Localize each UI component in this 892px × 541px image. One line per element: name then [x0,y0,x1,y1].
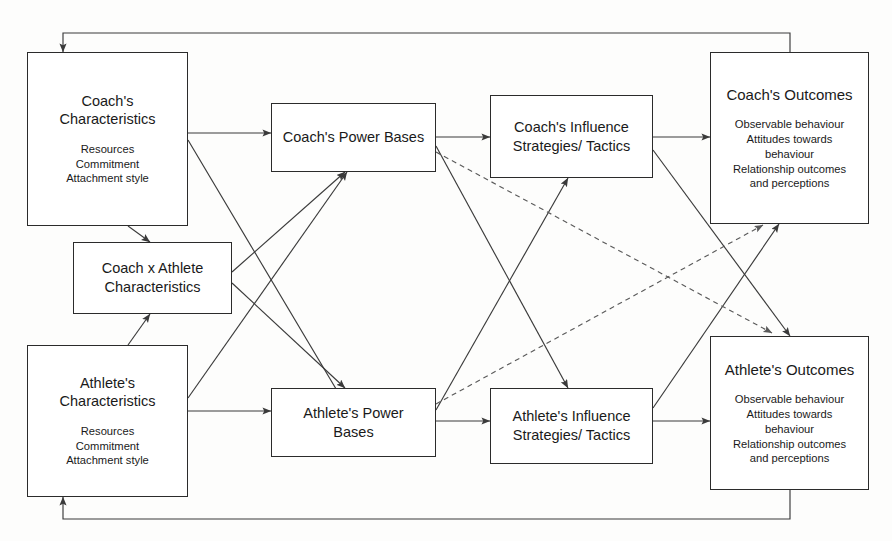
node-title: Coach's Power Bases [283,128,424,147]
node-athlete-characteristics[interactable]: Athlete's Characteristics Resources Comm… [27,345,188,497]
edge-athletechar-to-interaction [128,314,150,345]
edge-interaction-to-coachpower [232,172,345,272]
node-athlete-outcomes[interactable]: Athlete's Outcomes Observable behaviour … [710,336,869,490]
node-subtext: Observable behaviour Attitudes towards b… [733,117,846,191]
node-title: Athlete's Power Bases [303,404,403,441]
node-subtext: Observable behaviour Attitudes towards b… [733,392,846,466]
node-title: Coach's Influence Strategies/ Tactics [513,118,630,155]
node-coach-athlete-characteristics[interactable]: Coach x Athlete Characteristics [73,242,232,314]
node-coach-power-bases[interactable]: Coach's Power Bases [271,103,436,172]
node-title: Athlete's Outcomes [725,360,855,379]
node-title: Athlete's Influence Strategies/ Tactics [512,407,630,444]
node-title: Coach x Athlete Characteristics [102,259,204,296]
node-title: Coach's Characteristics [60,92,156,129]
edge-coachchar-to-interaction [128,226,150,242]
edge-feedback-coach-top [63,33,790,52]
node-coach-influence[interactable]: Coach's Influence Strategies/ Tactics [490,95,653,178]
edge-coachpower-to-athleteinfluence [436,146,568,388]
node-coach-outcomes[interactable]: Coach's Outcomes Observable behaviour At… [710,52,869,224]
node-athlete-influence[interactable]: Athlete's Influence Strategies/ Tactics [490,388,653,464]
diagram-canvas: Coach's Characteristics Resources Commit… [0,0,892,541]
node-coach-characteristics[interactable]: Coach's Characteristics Resources Commit… [27,52,188,226]
edge-interaction-to-athletepower [232,283,345,388]
node-subtext: Resources Commitment Attachment style [66,424,149,469]
node-title: Coach's Outcomes [726,85,852,104]
node-athlete-power-bases[interactable]: Athlete's Power Bases [271,388,436,457]
node-title: Athlete's Characteristics [60,374,156,411]
node-subtext: Resources Commitment Attachment style [66,142,149,187]
edge-athletepower-to-coachinfluence [436,178,568,410]
